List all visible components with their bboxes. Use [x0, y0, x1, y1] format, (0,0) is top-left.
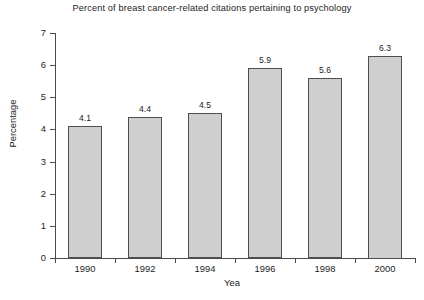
- x-axis-tick-label: 1996: [235, 264, 295, 273]
- x-axis-tick: [355, 259, 356, 263]
- bar: [308, 78, 342, 258]
- x-axis-tick-label: 1992: [115, 264, 175, 273]
- y-axis-tick-label: 5: [30, 92, 46, 101]
- y-axis-tick-label: 0: [30, 253, 46, 262]
- bar: [128, 117, 162, 258]
- y-axis-tick-label: 6: [30, 60, 46, 69]
- x-axis-tick-label: 1990: [55, 264, 115, 273]
- y-axis-title: Percentage: [7, 84, 18, 164]
- y-axis-tick-label: 7: [30, 28, 46, 37]
- bar-value-label: 4.5: [175, 101, 235, 110]
- bar-value-label: 5.6: [295, 66, 355, 75]
- bar: [188, 113, 222, 258]
- y-axis-tick-label: 2: [30, 189, 46, 198]
- x-axis-tick-label: 1994: [175, 264, 235, 273]
- bar: [248, 68, 282, 258]
- x-axis-tick: [295, 259, 296, 263]
- bar-chart: Percent of breast cancer-related citatio…: [0, 0, 424, 300]
- bar-value-label: 4.4: [115, 105, 175, 114]
- y-axis-tick-label: 4: [30, 124, 46, 133]
- bar: [68, 126, 102, 258]
- x-axis-tick: [115, 259, 116, 263]
- y-axis-tick-label: 1: [30, 221, 46, 230]
- y-axis-tick: [50, 226, 55, 227]
- bar-value-label: 4.1: [55, 114, 115, 123]
- chart-title: Percent of breast cancer-related citatio…: [0, 3, 424, 13]
- y-axis-tick-label: 3: [30, 157, 46, 166]
- x-axis-tick: [55, 259, 56, 263]
- y-axis-tick: [50, 65, 55, 66]
- y-axis-tick: [50, 162, 55, 163]
- y-axis-tick: [50, 194, 55, 195]
- bar: [368, 56, 402, 259]
- x-axis-title: Yea: [142, 277, 322, 288]
- bar-value-label: 5.9: [235, 56, 295, 65]
- y-axis-tick: [50, 129, 55, 130]
- x-axis-tick: [175, 259, 176, 263]
- x-axis-tick-label: 2000: [355, 264, 415, 273]
- y-axis-line: [55, 33, 56, 259]
- y-axis-tick: [50, 33, 55, 34]
- x-axis-tick: [235, 259, 236, 263]
- y-axis-tick: [50, 97, 55, 98]
- x-axis-tick: [415, 259, 416, 263]
- bar-value-label: 6.3: [355, 44, 415, 53]
- x-axis-tick-label: 1998: [295, 264, 355, 273]
